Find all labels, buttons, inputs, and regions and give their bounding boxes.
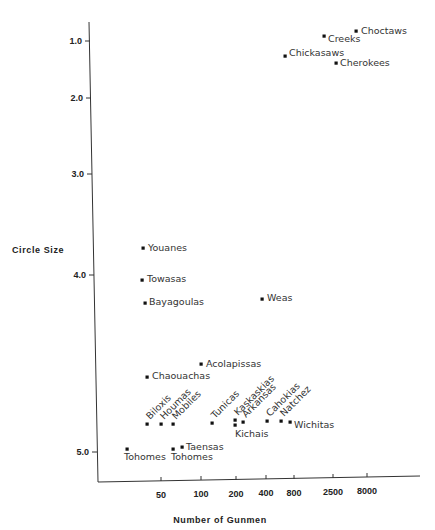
data-point: Towasas: [141, 273, 187, 284]
data-point: Cherokees: [335, 57, 390, 68]
data-point: Chickasaws: [284, 47, 345, 58]
point-label: Youanes: [147, 242, 187, 253]
y-tick-label: 1.0: [69, 36, 82, 46]
point-label: Chaouachas: [152, 370, 210, 381]
data-points: ChoctawsCreeksChickasawsCherokeesYouanes…: [123, 25, 407, 462]
point-label: Choctaws: [361, 25, 407, 36]
square-marker-icon: [234, 419, 237, 422]
square-marker-icon: [181, 446, 184, 449]
point-label: Creeks: [328, 33, 361, 44]
square-marker-icon: [266, 420, 269, 423]
y-axis-ticks: 1.02.03.04.05.0: [69, 36, 97, 457]
square-marker-icon: [280, 420, 283, 423]
square-marker-icon: [323, 35, 326, 38]
point-label: Tohomes: [123, 451, 166, 462]
square-marker-icon: [146, 423, 149, 426]
data-point: Weas: [261, 292, 293, 303]
square-marker-icon: [146, 376, 149, 379]
data-point: Kichais: [234, 424, 269, 440]
data-point: Bayagoulas: [144, 296, 205, 307]
square-marker-icon: [141, 279, 144, 282]
x-axis-line: [98, 476, 420, 482]
point-label: Tohomes: [170, 451, 213, 462]
point-label: Towasas: [146, 273, 186, 284]
point-label: Weas: [267, 292, 293, 303]
square-marker-icon: [289, 421, 292, 424]
point-label: Wichitas: [294, 419, 334, 430]
point-label: Bayagoulas: [149, 296, 204, 307]
scatter-chart: 1.02.03.04.05.0 5010020040080025008000 C…: [0, 0, 435, 530]
data-point: Tohomes: [123, 448, 166, 463]
y-axis-line: [89, 22, 98, 482]
data-point: Wichitas: [289, 419, 335, 430]
y-axis-title: Circle Size: [12, 245, 64, 255]
square-marker-icon: [172, 423, 175, 426]
x-tick-label: 100: [193, 489, 208, 499]
square-marker-icon: [284, 55, 287, 58]
data-point: Youanes: [142, 242, 188, 253]
x-tick-label: 400: [258, 488, 273, 498]
x-tick-label: 50: [156, 490, 166, 500]
data-point: Taensas: [181, 441, 224, 452]
square-marker-icon: [211, 422, 214, 425]
x-tick-label: 800: [286, 488, 301, 498]
square-marker-icon: [242, 421, 245, 424]
square-marker-icon: [335, 62, 338, 65]
x-tick-label: 2500: [323, 487, 343, 497]
square-marker-icon: [234, 424, 237, 427]
x-axis-title: Number of Gunmen: [173, 515, 267, 525]
data-point: Creeks: [323, 33, 361, 44]
y-tick-label: 5.0: [76, 447, 89, 457]
square-marker-icon: [144, 302, 147, 305]
square-marker-icon: [200, 363, 203, 366]
point-label: Taensas: [185, 441, 224, 452]
axes: [89, 22, 420, 482]
y-tick-label: 3.0: [71, 169, 84, 179]
x-tick-label: 8000: [357, 486, 377, 496]
point-label: Acolapissas: [206, 358, 261, 369]
point-label: Chickasaws: [289, 47, 344, 58]
data-point: Choctaws: [355, 25, 408, 36]
data-point: Chaouachas: [146, 370, 211, 381]
point-label: Kichais: [235, 428, 269, 439]
square-marker-icon: [160, 423, 163, 426]
data-point: Acolapissas: [200, 358, 262, 369]
y-tick-label: 2.0: [70, 93, 83, 103]
y-tick-label: 4.0: [73, 270, 86, 280]
point-label: Cherokees: [340, 57, 390, 68]
square-marker-icon: [142, 247, 145, 250]
x-tick-label: 200: [228, 489, 243, 499]
square-marker-icon: [261, 298, 264, 301]
